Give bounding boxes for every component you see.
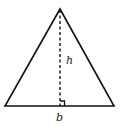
height-label: h [66,54,73,67]
base-label: b [56,111,63,124]
triangle-diagram: h b [0,0,123,127]
